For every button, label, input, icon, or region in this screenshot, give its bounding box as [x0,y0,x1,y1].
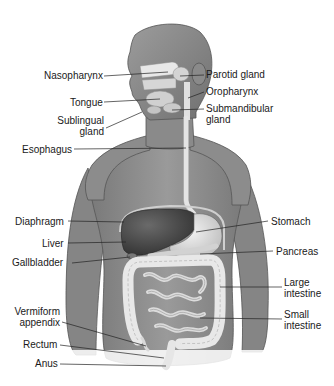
label-anus: Anus [35,358,58,369]
label-vermiform-line2: appendix [12,317,60,328]
label-submandibular-gland: Submandibular gland [206,103,273,125]
label-tongue: Tongue [70,97,103,108]
label-parotid-gland: Parotid gland [206,69,265,80]
label-sublingual-line1: Sublingual [57,115,104,126]
label-small-line2: intestine [284,320,321,331]
label-pancreas: Pancreas [276,246,318,257]
label-small-intestine: Small intestine [284,309,321,331]
label-esophagus: Esophagus [22,144,72,155]
label-submandibular-line1: Submandibular [206,103,273,114]
label-large-line1: Large [284,277,321,288]
label-liver: Liver [42,238,64,249]
label-rectum: Rectum [23,339,57,350]
label-stomach: Stomach [271,216,310,227]
label-nasopharynx: Nasopharynx [44,70,103,81]
label-sublingual-gland: Sublingual gland [57,115,104,137]
label-oropharynx: Oropharynx [206,86,258,97]
label-vermiform-appendix: Vermiform appendix [12,306,60,328]
head [128,24,212,120]
label-small-line1: Small [284,309,321,320]
label-large-intestine: Large intestine [284,277,321,299]
label-large-line2: intestine [284,288,321,299]
label-sublingual-line2: gland [57,126,104,137]
label-gallbladder: Gallbladder [12,257,63,268]
label-vermiform-line1: Vermiform [12,306,60,317]
label-diaphragm: Diaphragm [15,216,64,227]
label-submandibular-line2: gland [206,114,273,125]
